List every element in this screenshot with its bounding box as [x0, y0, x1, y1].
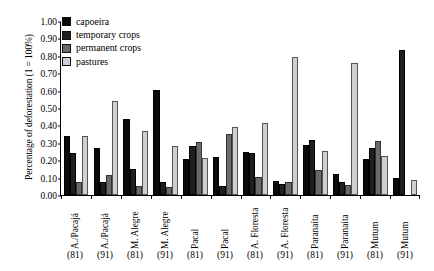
x-label-cell: A. Floresta	[270, 197, 300, 249]
y-tick-label: 0.40	[23, 121, 61, 131]
y-tick-label: 0.30	[23, 139, 61, 149]
x-tick-label: A. Floresta	[250, 197, 260, 249]
x-year-label: (81)	[240, 250, 270, 260]
bar[interactable]	[82, 136, 88, 195]
x-year-label: (81)	[360, 250, 390, 260]
bar-group	[151, 22, 181, 195]
x-label-cell: M. Alegre	[120, 197, 150, 249]
y-tick-label: 0.20	[23, 156, 61, 166]
x-year-label: (91)	[270, 250, 300, 260]
x-tick-label: Mutum	[370, 197, 380, 249]
x-tick-label: Pacal	[220, 197, 230, 249]
legend-item[interactable]: temporary crops	[62, 30, 141, 40]
y-tick-label: 0.80	[23, 52, 61, 62]
x-label-cell: M. Alegre	[150, 197, 180, 249]
x-year-label: (81)	[60, 250, 90, 260]
bar-group	[300, 22, 330, 195]
bar[interactable]	[411, 180, 417, 195]
x-label-cell: Paranaíta	[300, 197, 330, 249]
y-tick-label: 1.00	[23, 17, 61, 27]
x-tick-label: Pacal	[190, 197, 200, 249]
x-axis-labels: A./PacajáA./PacajáM. AlegreM. AlegrePaca…	[60, 197, 420, 249]
x-year-label: (81)	[300, 250, 330, 260]
bar-group	[270, 22, 300, 195]
legend-label: temporary crops	[76, 30, 140, 40]
bar[interactable]	[172, 146, 178, 195]
legend: capoeiratemporary cropspermanent cropspa…	[62, 17, 141, 66]
x-label-cell: Pacal	[180, 197, 210, 249]
legend-label: pastures	[76, 57, 108, 67]
legend-swatch-icon	[62, 17, 71, 26]
y-tick-label: 0.90	[23, 34, 61, 44]
y-tick-label: 0.00	[23, 191, 61, 201]
x-label-cell: A./Pacajá	[90, 197, 120, 249]
legend-label: permanent crops	[76, 43, 141, 53]
x-year-label: (91)	[210, 250, 240, 260]
x-year-label: (91)	[150, 250, 180, 260]
bar[interactable]	[232, 127, 238, 195]
legend-item[interactable]: pastures	[62, 57, 141, 67]
bar[interactable]	[153, 90, 159, 195]
bar[interactable]	[351, 63, 357, 195]
legend-swatch-icon	[62, 57, 71, 66]
x-year-label: (91)	[390, 250, 420, 260]
x-label-cell: Mutum	[360, 197, 390, 249]
x-year-label: (91)	[90, 250, 120, 260]
legend-swatch-icon	[62, 31, 71, 40]
bar[interactable]	[262, 123, 268, 195]
x-tick-label: A./Pacajá	[100, 197, 110, 249]
y-tick-label: 0.10	[23, 174, 61, 184]
bar[interactable]	[112, 101, 118, 195]
x-tick-label: M. Alegre	[130, 197, 140, 249]
legend-label: capoeira	[76, 17, 109, 27]
legend-item[interactable]: capoeira	[62, 17, 141, 27]
bar[interactable]	[381, 156, 387, 195]
legend-item[interactable]: permanent crops	[62, 43, 141, 53]
x-tick-label: A./Pacajá	[70, 197, 80, 249]
x-label-cell: A./Pacajá	[60, 197, 90, 249]
bar-group	[181, 22, 211, 195]
bar[interactable]	[399, 50, 405, 195]
x-tick-label: Paranaíta	[340, 197, 350, 249]
x-label-cell: Paranaíta	[330, 197, 360, 249]
x-tick-label: Mutum	[400, 197, 410, 249]
x-tick-label: M. Alegre	[160, 197, 170, 249]
x-year-label: (81)	[120, 250, 150, 260]
x-label-cell: A. Floresta	[240, 197, 270, 249]
bar-group	[211, 22, 241, 195]
x-tick-label: Paranaíta	[310, 197, 320, 249]
bar-group	[241, 22, 271, 195]
bar[interactable]	[292, 57, 298, 195]
deforestation-bar-chart: Percentage of deforestation (1 = 100%) 1…	[0, 0, 434, 271]
y-tick-label: 0.70	[23, 69, 61, 79]
y-tick-label: 0.50	[23, 104, 61, 114]
x-label-cell: Mutum	[390, 197, 420, 249]
bar[interactable]	[202, 158, 208, 195]
legend-swatch-icon	[62, 44, 71, 53]
x-tick-label: A. Floresta	[280, 197, 290, 249]
x-label-cell: Pacal	[210, 197, 240, 249]
bar[interactable]	[322, 151, 328, 195]
bar-group	[360, 22, 390, 195]
bar-group	[390, 22, 420, 195]
bar[interactable]	[142, 131, 148, 195]
x-year-label: (81)	[180, 250, 210, 260]
bar-group	[330, 22, 360, 195]
y-tick-label: 0.60	[23, 87, 61, 97]
x-year-label: (91)	[330, 250, 360, 260]
x-axis-year-labels: (81)(91)(81)(91)(81)(91)(81)(91)(81)(91)…	[60, 250, 420, 260]
